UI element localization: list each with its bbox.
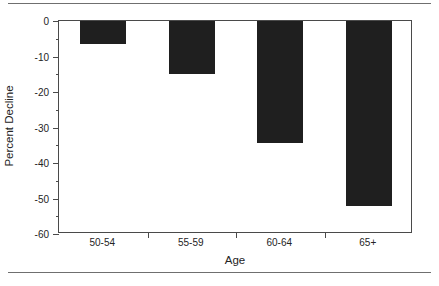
y-tick-major: -10	[53, 57, 59, 58]
y-tick-major: -50	[53, 199, 59, 200]
y-tick-minor	[56, 74, 60, 75]
y-tick-minor	[56, 216, 60, 217]
x-tick-label: 50-54	[89, 238, 115, 248]
y-tick-label: -60	[35, 230, 49, 240]
y-tick-minor	[56, 110, 60, 111]
y-tick-major: -60	[53, 234, 59, 235]
y-axis-title: Percent Decline	[3, 85, 15, 166]
y-tick-major: -30	[53, 128, 59, 129]
y-tick-label: -30	[35, 124, 49, 134]
x-axis-category-labels: 50-5455-5960-6465+	[58, 238, 412, 252]
y-tick-label: -40	[35, 159, 49, 169]
x-tick-label: 55-59	[178, 238, 204, 248]
x-tick-label: 65+	[359, 238, 376, 248]
plot-area: 0-10-20-30-40-50-60	[58, 20, 412, 233]
y-tick-label: -20	[35, 88, 49, 98]
bar	[169, 21, 215, 74]
y-tick-minor	[56, 145, 60, 146]
y-tick-minor	[56, 39, 60, 40]
y-tick-major: -20	[53, 92, 59, 93]
y-tick-minor	[56, 181, 60, 182]
bar	[80, 21, 126, 44]
y-tick-label: -10	[35, 53, 49, 63]
bar	[346, 21, 392, 206]
figure-bottom-rule	[8, 272, 431, 273]
y-tick-label: -50	[35, 195, 49, 205]
y-tick-major: -40	[53, 163, 59, 164]
figure-top-rule	[8, 3, 431, 4]
y-tick-major: 0	[53, 21, 59, 22]
x-axis-title: Age	[58, 254, 412, 266]
bar-series	[59, 21, 411, 232]
bar	[257, 21, 303, 143]
x-tick-label: 60-64	[266, 238, 292, 248]
y-tick-label: 0	[43, 17, 49, 27]
